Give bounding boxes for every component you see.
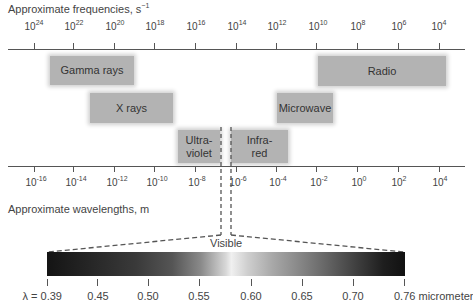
vis-tick — [97, 279, 98, 286]
vis-tick — [404, 279, 405, 286]
vis-tick-label: 0.60 — [240, 290, 261, 302]
visible-spectrum-bar — [47, 252, 405, 276]
vis-tick-label: 0.50 — [137, 290, 158, 302]
vis-tick-label: 0.76 micrometer — [394, 290, 473, 302]
vis-tick-label: λ = 0.39 — [23, 290, 62, 302]
vis-tick — [199, 279, 200, 286]
visible-label: Visible — [210, 237, 242, 249]
vis-tick — [353, 279, 354, 286]
vis-tick — [251, 279, 252, 286]
vis-tick-label: 0.55 — [188, 290, 209, 302]
vis-tick-label: 0.45 — [87, 290, 108, 302]
vis-tick — [302, 279, 303, 286]
vis-tick — [47, 279, 48, 286]
vis-tick-label: 0.70 — [342, 290, 363, 302]
vis-tick — [148, 279, 149, 286]
vis-tick-label: 0.65 — [291, 290, 312, 302]
